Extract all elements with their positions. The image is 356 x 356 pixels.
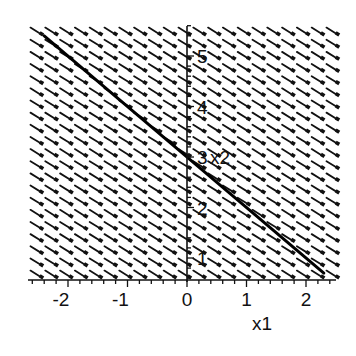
field-arrow <box>238 137 252 146</box>
field-arrow <box>282 40 296 49</box>
field-arrow <box>312 40 326 49</box>
field-arrow <box>90 125 104 134</box>
field-arrow <box>238 76 252 85</box>
field-arrow <box>178 100 192 109</box>
field-arrow <box>164 234 178 243</box>
field-arrow <box>312 186 326 195</box>
field-arrow <box>60 161 74 170</box>
field-arrow <box>104 234 118 243</box>
field-arrow <box>75 222 89 231</box>
field-arrow <box>104 113 118 122</box>
field-arrow <box>164 258 178 267</box>
field-arrow <box>312 76 326 85</box>
field-arrow <box>45 100 59 109</box>
field-arrow <box>75 173 89 182</box>
field-arrow <box>30 173 44 182</box>
field-arrow <box>149 173 163 182</box>
field-arrow <box>267 198 281 207</box>
field-arrow <box>104 246 118 255</box>
field-arrow <box>60 100 74 109</box>
field-arrow <box>60 258 74 267</box>
field-arrow <box>30 198 44 207</box>
field-arrow <box>297 271 311 280</box>
field-arrow <box>312 64 326 73</box>
field-arrow <box>164 210 178 219</box>
y-tick-label: 1 <box>197 248 208 269</box>
field-arrow <box>238 125 252 134</box>
field-arrow <box>326 76 340 85</box>
field-arrow <box>75 271 89 280</box>
field-arrow <box>193 222 207 231</box>
field-arrow <box>252 100 266 109</box>
field-arrow <box>178 137 192 146</box>
field-arrow <box>60 149 74 158</box>
field-arrow <box>223 258 237 267</box>
x-tick-label: 1 <box>241 289 252 310</box>
field-arrow <box>90 198 104 207</box>
field-arrow <box>223 125 237 134</box>
field-arrow <box>193 271 207 280</box>
field-arrow <box>297 100 311 109</box>
field-arrow <box>297 125 311 134</box>
field-arrow <box>164 271 178 280</box>
field-arrow <box>134 271 148 280</box>
field-arrow <box>75 125 89 134</box>
field-arrow <box>90 161 104 170</box>
field-arrow <box>326 52 340 61</box>
field-arrow <box>134 210 148 219</box>
field-arrow <box>60 271 74 280</box>
field-arrow <box>267 100 281 109</box>
field-arrow <box>134 173 148 182</box>
field-arrow <box>75 198 89 207</box>
field-arrow <box>45 113 59 122</box>
field-arrow <box>119 173 133 182</box>
field-arrow <box>90 40 104 49</box>
field-arrow <box>238 258 252 267</box>
field-arrow <box>282 173 296 182</box>
field-arrow <box>60 113 74 122</box>
field-arrow <box>60 234 74 243</box>
field-arrow <box>75 113 89 122</box>
field-arrow <box>208 234 222 243</box>
field-arrow <box>60 40 74 49</box>
field-arrow <box>164 222 178 231</box>
field-arrow <box>178 161 192 170</box>
field-arrow <box>90 210 104 219</box>
field-arrow <box>282 258 296 267</box>
field-arrow <box>149 210 163 219</box>
field-arrow <box>30 125 44 134</box>
field-arrow <box>282 149 296 158</box>
field-arrow <box>208 137 222 146</box>
field-arrow <box>282 113 296 122</box>
field-arrow <box>75 234 89 243</box>
field-arrow <box>252 234 266 243</box>
field-arrow <box>90 149 104 158</box>
field-arrow <box>164 246 178 255</box>
field-arrow <box>326 246 340 255</box>
field-arrow <box>267 210 281 219</box>
field-arrow <box>312 149 326 158</box>
field-arrow <box>164 149 178 158</box>
field-arrow <box>75 258 89 267</box>
field-arrow <box>90 222 104 231</box>
field-arrow <box>297 222 311 231</box>
field-arrow <box>282 137 296 146</box>
field-arrow <box>252 186 266 195</box>
field-arrow <box>267 64 281 73</box>
field-arrow <box>267 137 281 146</box>
field-arrow <box>119 64 133 73</box>
field-arrow <box>326 271 340 280</box>
field-arrow <box>326 88 340 97</box>
field-arrow <box>267 186 281 195</box>
field-arrow <box>282 222 296 231</box>
field-arrow <box>193 76 207 85</box>
field-arrow <box>75 76 89 85</box>
field-arrow <box>326 113 340 122</box>
field-arrow <box>164 52 178 61</box>
field-arrow <box>252 88 266 97</box>
field-arrow <box>104 28 118 37</box>
field-arrow <box>193 173 207 182</box>
field-arrow <box>178 198 192 207</box>
field-arrow <box>149 149 163 158</box>
field-arrow <box>252 258 266 267</box>
